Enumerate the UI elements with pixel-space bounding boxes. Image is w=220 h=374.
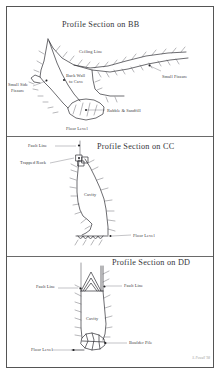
label-floor-level-dd: Floor Level bbox=[31, 347, 53, 352]
section-title-bb: Profile Section on BB bbox=[62, 20, 139, 29]
profile-section-cc: Profile Section on CC Fault Line Trapped… bbox=[0, 136, 220, 258]
profile-section-dd: Profile Section on DD Fault Line Fault L… bbox=[0, 258, 220, 368]
section-title-cc: Profile Section on CC bbox=[97, 142, 174, 151]
profile-cc-drawing bbox=[0, 136, 220, 258]
label-rubble-sandfill: Rubble & Sandfill bbox=[107, 108, 141, 113]
label-small-fissure: Small Fissure bbox=[162, 74, 187, 79]
label-small-side-fissure-line2: Fissure bbox=[11, 88, 24, 93]
label-small-side-fissure-line1: Small Side bbox=[8, 82, 28, 87]
survey-sheet: Profile Section on BB Ceiling Line Small… bbox=[0, 0, 220, 374]
label-fault-line-dd-right: Fault Line bbox=[124, 283, 143, 288]
label-trapped-rock: Trapped Rock bbox=[20, 160, 46, 165]
label-fault-line-dd-left: Fault Line bbox=[36, 284, 55, 289]
profile-section-bb: Profile Section on BB Ceiling Line Small… bbox=[0, 6, 220, 136]
label-back-wall-to-cave-line2: to Cave bbox=[69, 79, 83, 84]
label-cavity-cc: Cavity bbox=[84, 192, 96, 197]
label-ceiling-line: Ceiling Line bbox=[79, 49, 102, 54]
signature-credit: S. Powell '98 bbox=[192, 356, 210, 360]
label-boulder-pile: Boulder Pile bbox=[129, 340, 152, 345]
label-cavity-dd: Cavity bbox=[86, 316, 98, 321]
label-fault-line-cc: Fault Line bbox=[28, 143, 47, 148]
section-title-dd: Profile Section on DD bbox=[112, 258, 190, 267]
label-floor-level-bb: Floor Level bbox=[66, 126, 88, 131]
label-back-wall-to-cave-line1: Back Wall bbox=[66, 73, 85, 78]
label-floor-level-cc: Floor Level bbox=[133, 233, 155, 238]
